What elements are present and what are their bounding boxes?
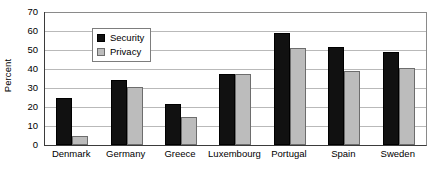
x-axis-tick-label: Luxembourg <box>207 148 261 160</box>
bar-privacy-sweden <box>399 68 415 145</box>
y-axis-tick-label: 50 <box>18 45 38 55</box>
bar-privacy-greece <box>181 117 197 146</box>
bar-chart-figure: Percent 010203040506070 SecurityPrivacy … <box>0 0 433 180</box>
y-axis-tick-label: 10 <box>18 121 38 131</box>
bar-group <box>154 12 208 145</box>
y-axis-tick-label: 20 <box>18 102 38 112</box>
bar-group <box>208 12 262 145</box>
y-axis-tick-labels: 010203040506070 <box>14 0 38 180</box>
legend-item: Privacy <box>97 45 144 58</box>
bar-security-portugal <box>274 33 290 145</box>
y-axis-tick-label: 60 <box>18 26 38 36</box>
y-axis-title-label: Percent <box>3 58 14 91</box>
chart-legend: SecurityPrivacy <box>92 28 151 62</box>
gray-square-swatch <box>97 48 105 56</box>
x-axis-tick-label: Denmark <box>44 148 98 160</box>
bar-security-luxembourg <box>219 74 235 145</box>
x-axis-tick-label: Portugal <box>262 148 316 160</box>
bar-privacy-spain <box>344 71 360 145</box>
bar-group <box>372 12 426 145</box>
legend-item-label: Security <box>110 33 144 43</box>
bar-group <box>317 12 371 145</box>
bar-security-denmark <box>56 98 72 145</box>
y-axis-tick-label: 30 <box>18 83 38 93</box>
bar-privacy-portugal <box>290 48 306 145</box>
black-square-swatch <box>97 34 105 42</box>
y-axis-tick-label: 0 <box>18 140 38 150</box>
bar-security-greece <box>165 104 181 145</box>
y-axis-tick-label: 40 <box>18 64 38 74</box>
y-axis-tick-label: 70 <box>18 7 38 17</box>
plot-area: SecurityPrivacy <box>44 12 427 146</box>
x-axis-tick-label: Spain <box>316 148 370 160</box>
bar-security-sweden <box>383 52 399 145</box>
x-axis-tick-label: Germany <box>98 148 152 160</box>
bar-security-spain <box>328 47 344 145</box>
bar-security-germany <box>111 80 127 145</box>
legend-item-label: Privacy <box>110 47 141 57</box>
bar-privacy-germany <box>127 87 143 145</box>
bar-group <box>263 12 317 145</box>
x-axis-tick-label: Sweden <box>371 148 425 160</box>
x-axis-tick-labels: DenmarkGermanyGreeceLuxembourgPortugalSp… <box>44 148 425 168</box>
x-axis-tick-label: Greece <box>153 148 207 160</box>
bar-privacy-luxembourg <box>235 74 251 145</box>
legend-item: Security <box>97 31 144 44</box>
bar-privacy-denmark <box>72 136 88 146</box>
